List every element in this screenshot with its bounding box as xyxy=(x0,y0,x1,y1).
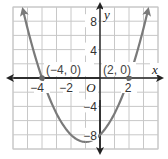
intercept-point xyxy=(39,75,45,81)
x-tick-label: 2 xyxy=(125,81,132,95)
x-tick-label: −4 xyxy=(30,81,44,95)
y-axis-label: y xyxy=(102,7,110,22)
point-label-neg4: (−4, 0) xyxy=(46,63,81,77)
y-tick-label: −4 xyxy=(83,100,97,114)
x-tick-label: −2 xyxy=(59,81,73,95)
y-tick-label: 4 xyxy=(90,44,97,58)
parabola-graph: (−4, 0)(2, 0) −4−2284−4−8Oyx xyxy=(0,0,168,159)
y-tick-label: 8 xyxy=(90,15,97,29)
origin-label: O xyxy=(86,80,96,95)
point-label-2: (2, 0) xyxy=(103,63,131,77)
x-axis-label: x xyxy=(151,62,158,77)
y-tick-label: −8 xyxy=(83,129,97,143)
